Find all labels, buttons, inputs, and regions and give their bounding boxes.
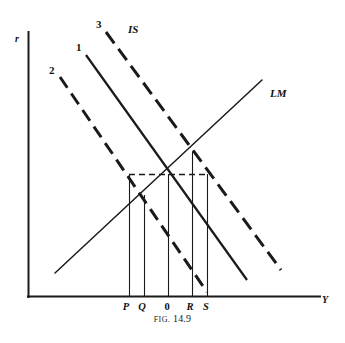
is-curve-2-group xyxy=(60,77,207,292)
drop-lines-group xyxy=(130,152,208,296)
lm-curve-label: LM xyxy=(269,87,288,99)
figure-caption-prefix: FIG. xyxy=(154,315,171,324)
is-curve-1-group xyxy=(86,55,247,280)
figure-caption: FIG. 14.9 xyxy=(0,313,345,324)
lm-curve xyxy=(55,80,262,273)
x-tick-label-q: Q xyxy=(138,301,146,312)
x-tick-label-s: S xyxy=(203,301,209,312)
is-curve-3-number-label: 3 xyxy=(96,18,102,30)
is-curve-3 xyxy=(106,32,281,270)
x-tick-label-p: P xyxy=(123,301,130,312)
is-curve-1 xyxy=(86,55,247,280)
is-lm-figure: r Y 3 1 2 IS LM P Q 0 R S FIG. 14.9 xyxy=(0,0,345,343)
x-tick-label-zero: 0 xyxy=(164,301,169,312)
lm-curve-group xyxy=(55,80,262,273)
is-curve-1-number-label: 1 xyxy=(76,41,82,53)
is-lm-chart-svg: r Y 3 1 2 IS LM P Q 0 R S xyxy=(0,0,345,343)
is-curve-3-group xyxy=(106,32,281,270)
is-curve-family-label: IS xyxy=(127,23,138,35)
y-axis-label: r xyxy=(15,33,19,44)
x-tick-label-r: R xyxy=(185,301,193,312)
is-curve-2 xyxy=(60,77,207,292)
is-curve-2-number-label: 2 xyxy=(49,64,55,76)
figure-caption-number: 14.9 xyxy=(173,313,191,324)
x-axis-label: Y xyxy=(322,294,329,305)
